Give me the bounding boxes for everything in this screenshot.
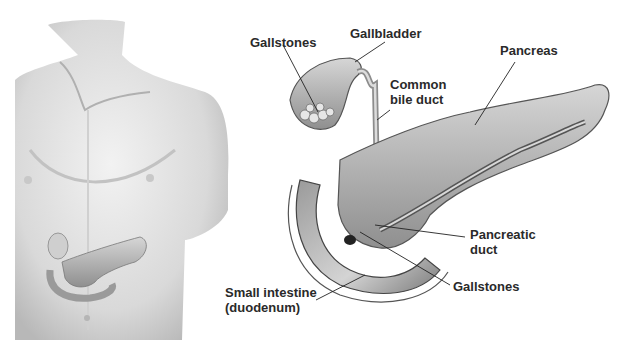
- label-gallstones-bottom: Gallstones: [453, 279, 519, 294]
- leader-common-bile-duct: [377, 110, 390, 120]
- label-pancreas: Pancreas: [500, 43, 558, 58]
- label-small-intestine-line1: Small intestine: [225, 285, 317, 300]
- label-gallbladder: Gallbladder: [350, 26, 422, 41]
- label-pancreatic-duct-line1: Pancreatic: [470, 227, 536, 242]
- leader-gallbladder: [355, 42, 385, 62]
- label-gallstones-top: Gallstones: [250, 35, 316, 50]
- label-small-intestine: Small intestine (duodenum): [225, 285, 317, 315]
- label-pancreatic-duct: Pancreatic duct: [470, 227, 536, 257]
- torso-figure: [0, 0, 240, 340]
- label-pancreatic-duct-line2: duct: [470, 242, 536, 257]
- pancreas-illustration: [338, 85, 609, 249]
- label-common-bile-duct: Common bile duct: [390, 77, 446, 107]
- label-common-bile-duct-line1: Common: [390, 77, 446, 92]
- label-common-bile-duct-line2: bile duct: [390, 92, 446, 107]
- label-small-intestine-line2: (duodenum): [225, 300, 317, 315]
